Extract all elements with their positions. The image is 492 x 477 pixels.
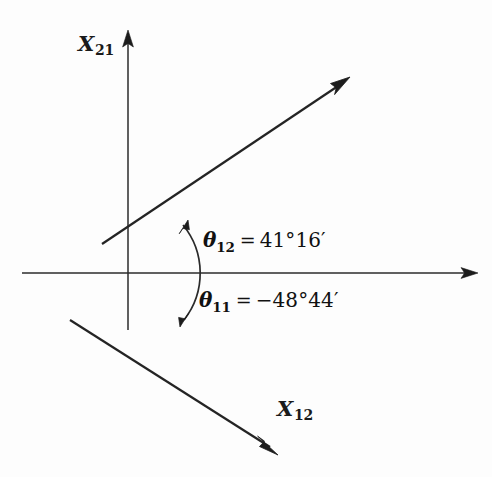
vertical-axis-label: X21	[78, 33, 114, 57]
ray-theta11-line	[70, 320, 270, 447]
vertical-axis-label-base: X	[78, 31, 95, 56]
ray-theta12-arrowhead-icon	[331, 77, 351, 95]
rotated-axis-label-subscript: 12	[294, 407, 314, 423]
vertical-axis-label-subscript: 21	[95, 42, 115, 58]
horizontal-axis	[22, 268, 478, 279]
angle-arc-lower-arrowhead-icon	[179, 313, 189, 327]
theta11-symbol: θ	[199, 288, 212, 312]
theta12-subscript: 12	[216, 239, 234, 255]
theta12-value: 41°16′	[260, 228, 326, 252]
angle-label-theta11: θ11=−48°44′	[199, 290, 339, 314]
theta11-equals: =	[231, 289, 256, 311]
angle-label-theta12: θ12=41°16′	[203, 230, 326, 254]
ray-theta11-arrowhead-icon	[258, 436, 278, 455]
ray-theta12-line	[102, 84, 341, 244]
theta12-symbol: θ	[203, 228, 216, 252]
theta11-value: −48°44′	[256, 288, 339, 312]
vertical-axis	[123, 30, 134, 330]
theta12-equals: =	[235, 229, 260, 251]
rotated-axis-label: X12	[277, 398, 313, 422]
figure-root: X21 X12 θ12=41°16′ θ11=−48°44′	[0, 0, 492, 477]
rotated-axis-label-base: X	[277, 396, 294, 421]
ray-theta11	[70, 320, 278, 455]
ray-theta12	[102, 77, 350, 244]
theta11-subscript: 11	[212, 299, 230, 315]
